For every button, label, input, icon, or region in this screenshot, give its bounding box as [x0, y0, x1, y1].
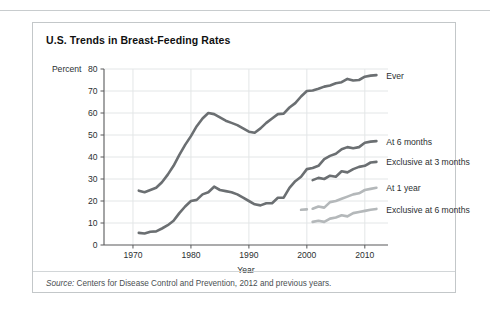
- y-tick-label-10: 10: [88, 218, 98, 228]
- series-label-exclusive-at-3-months: Exclusive at 3 months: [386, 157, 470, 167]
- gridlines: [104, 69, 388, 245]
- y-tick-label-70: 70: [88, 86, 98, 96]
- axis-titles: PercentYear: [52, 64, 255, 275]
- source-note: Source: Centers for Disease Control and …: [46, 279, 331, 288]
- axis-lines: [101, 69, 389, 249]
- x-tick-label-2000: 2000: [297, 250, 316, 260]
- series-line-exclusive-at-6-months: [313, 209, 377, 222]
- series-line-at-1-year: [313, 188, 377, 209]
- series-line-ever: [139, 75, 377, 192]
- x-tick-label-1970: 1970: [123, 250, 142, 260]
- y-tick-label-20: 20: [88, 196, 98, 206]
- y-tick-label-30: 30: [88, 174, 98, 184]
- series-label-exclusive-at-6-months: Exclusive at 6 months: [386, 205, 470, 215]
- y-tick-label-40: 40: [88, 152, 98, 162]
- source-prefix: Source:: [46, 279, 74, 288]
- y-tick-label-50: 50: [88, 130, 98, 140]
- source-divider: [33, 271, 455, 272]
- series-label-ever: Ever: [386, 71, 404, 81]
- series-line-exclusive-at-3-months: [313, 162, 377, 180]
- x-axis-title: Year: [237, 265, 255, 275]
- tick-labels: 0102030405060708019701980199020002010: [88, 64, 375, 260]
- figure-page: U.S. Trends in Breast-Feeding Rates 0102…: [0, 0, 490, 319]
- y-axis-title: Percent: [52, 64, 82, 74]
- y-tick-label-0: 0: [93, 240, 98, 250]
- x-tick-label-2010: 2010: [355, 250, 374, 260]
- series-label-at-6-months: At 6 months: [386, 137, 432, 147]
- series-labels: EverAt 6 monthsExclusive at 3 monthsAt 1…: [386, 71, 470, 215]
- series-label-at-1-year: At 1 year: [386, 183, 421, 193]
- y-tick-label-80: 80: [88, 64, 98, 74]
- source-text: Centers for Disease Control and Preventi…: [74, 279, 331, 288]
- series-line-at-6-months: [139, 141, 377, 233]
- x-tick-label-1980: 1980: [181, 250, 200, 260]
- x-tick-label-1990: 1990: [239, 250, 258, 260]
- y-tick-label-60: 60: [88, 108, 98, 118]
- series-lines: [139, 75, 377, 233]
